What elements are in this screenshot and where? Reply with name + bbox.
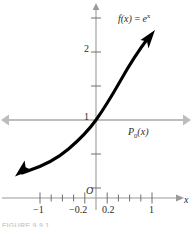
x-tick-label-neg0-2: −0.2: [69, 205, 87, 215]
figure-graph-exponential: f(x) = ex P0(x) O x 1 2 −1 −0.2 0.2 1 FI…: [0, 0, 192, 227]
function-label: f(x) = ex: [118, 13, 150, 24]
y-tick-label-2: 2: [84, 44, 89, 54]
curve-layer: [0, 0, 192, 227]
y-tick-label-1: 1: [84, 112, 89, 122]
x-tick-label-1: 1: [149, 205, 154, 215]
x-tick-label-neg1: −1: [33, 205, 44, 215]
function-label-exponent: x: [147, 12, 150, 19]
exponential-curve: [22, 38, 149, 174]
x-tick-label-0-2: 0.2: [102, 205, 115, 215]
polynomial-label: P0(x): [128, 127, 148, 140]
x-axis-label: x: [184, 195, 188, 205]
function-label-fx: f(x): [118, 13, 132, 24]
function-label-equals: =: [134, 13, 140, 24]
origin-label: O: [86, 186, 93, 196]
polynomial-label-argument: (x): [137, 126, 148, 137]
figure-caption: FIGURE 9.9.1: [2, 222, 50, 227]
